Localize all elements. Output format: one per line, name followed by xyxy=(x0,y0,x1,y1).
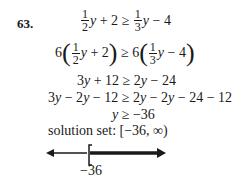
fraction: 13 xyxy=(134,8,142,33)
number-line xyxy=(44,140,169,170)
left-arrow-icon xyxy=(46,149,54,157)
endpoint-label: −36 xyxy=(80,163,102,179)
step-1: 12 y + 2 ≥ 13 y − 4 xyxy=(80,8,171,33)
step-2: 6 ( 12 y + 2 ) ≥ 6 ( 13 y − 4 ) xyxy=(55,40,195,66)
closed-bracket-icon xyxy=(89,145,92,165)
step-5: y ≥ −36 xyxy=(112,108,155,122)
fraction: 12 xyxy=(72,41,80,66)
problem-number: 63. xyxy=(17,16,33,32)
step-3: 3y + 12 ≥ 2y − 24 xyxy=(77,74,176,88)
right-arrow-icon xyxy=(157,148,166,158)
fraction: 12 xyxy=(81,8,89,33)
step-4: 3y − 2y − 12 ≥ 2y − 2y − 24 − 12 xyxy=(48,91,232,105)
solution-set: solution set: [−36, ∞) xyxy=(48,124,168,138)
fraction: 13 xyxy=(149,41,157,66)
